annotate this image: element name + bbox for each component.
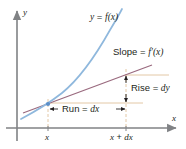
- run-label: Run = dx: [62, 104, 99, 115]
- tick-label-x-plus-dx: x + dx: [110, 133, 133, 142]
- run-label-word: Run: [62, 103, 79, 114]
- slope-label: Slope = f′(x): [113, 47, 163, 58]
- slope-label-arg: (x): [153, 47, 164, 57]
- rise-label-word: Rise: [131, 82, 150, 93]
- rise-label: Rise = dy: [131, 83, 170, 94]
- y-axis-label: y: [23, 8, 27, 17]
- differential-diagram-figure: y x y = f(x) Slope = f′(x) Rise = dy Run…: [0, 0, 186, 149]
- tick-label-x: x: [45, 133, 49, 142]
- guide-lines: [48, 69, 169, 128]
- tick-label-dx: dx: [124, 132, 133, 142]
- axes: [6, 11, 176, 141]
- x-axis-label: x: [172, 114, 176, 123]
- curve-label-arg: (x): [108, 12, 119, 22]
- slope-label-word: Slope: [113, 46, 137, 57]
- tangent-point-marker: [46, 102, 50, 106]
- rise-label-value: dy: [161, 83, 170, 93]
- run-label-value: dx: [90, 104, 99, 114]
- curve-label: y = f(x): [90, 12, 118, 23]
